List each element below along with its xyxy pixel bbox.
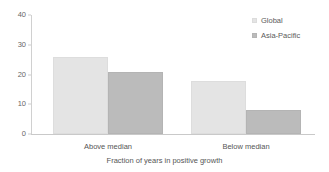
y-tick-label-0: 0 xyxy=(22,130,31,138)
y-tick-label-40: 40 xyxy=(18,11,31,19)
bar-group-above-median xyxy=(53,15,177,134)
bar-asia-pacific-below-median xyxy=(246,110,301,134)
y-tick-label-10: 10 xyxy=(18,101,31,109)
y-tick-label-30: 30 xyxy=(18,41,31,49)
bar-asia-pacific-above-median xyxy=(108,72,163,134)
x-category-label-below-median: Below median xyxy=(222,143,269,151)
bar-global-below-median xyxy=(191,81,246,134)
legend-entry-asia-pacific: Asia-Pacific xyxy=(252,31,300,40)
legend-label-global: Global xyxy=(261,17,283,25)
x-category-label-above-median: Above median xyxy=(84,143,132,151)
legend-entry-global: Global xyxy=(252,16,300,25)
bar-chart: 0 10 20 30 40 Above median Below median … xyxy=(0,0,329,172)
x-axis-title: Fraction of years in positive growth xyxy=(0,157,329,165)
bar-global-above-median xyxy=(53,57,108,134)
x-axis-line xyxy=(31,134,315,135)
y-tick-label-20: 20 xyxy=(18,71,31,79)
legend-swatch-icon-global xyxy=(252,18,257,23)
legend-label-asia-pacific: Asia-Pacific xyxy=(261,32,300,40)
chart-legend: Global Asia-Pacific xyxy=(252,16,300,40)
legend-swatch-icon-asia-pacific xyxy=(252,33,257,38)
